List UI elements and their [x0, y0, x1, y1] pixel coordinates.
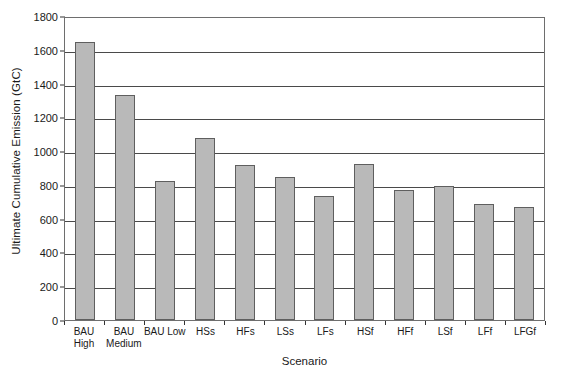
x-axis-tick-mark	[425, 321, 426, 325]
bar-slot	[344, 18, 384, 320]
bar[interactable]	[394, 190, 414, 320]
x-axis-tick-label: HSs	[186, 326, 226, 349]
y-axis-title-text: Ultimate Cumulative Emission (GtC)	[10, 67, 22, 254]
x-axis-tick-mark	[385, 321, 386, 325]
x-axis-tick-label-line1: HSf	[357, 326, 374, 337]
x-axis-tick-label-line1: LFs	[317, 326, 334, 337]
x-axis-tick-mark	[465, 321, 466, 325]
bar[interactable]	[314, 196, 334, 320]
bar-slot	[145, 18, 185, 320]
y-axis-tick-label: 1600	[34, 45, 58, 57]
x-axis-tick-label-line1: LFGf	[514, 326, 536, 337]
y-axis-tick-label: 1800	[34, 11, 58, 23]
x-axis-tick-mark	[264, 321, 265, 325]
y-axis-tick-label: 400	[40, 247, 58, 259]
x-axis-tick-label-line1: HSs	[196, 326, 215, 337]
x-axis-tick-mark	[505, 321, 506, 325]
x-axis-tick-label: LSs	[265, 326, 305, 349]
x-axis-tick-label: BAU Low	[144, 326, 186, 349]
bar[interactable]	[275, 177, 295, 320]
x-axis-tick-mark	[104, 321, 105, 325]
y-axis-tick-label: 1200	[34, 112, 58, 124]
bar-chart-figure: Ultimate Cumulative Emission (GtC) 02004…	[0, 0, 564, 378]
bar[interactable]	[514, 207, 534, 320]
bar-slot	[504, 18, 544, 320]
x-axis-tick-label-line1: LFf	[478, 326, 492, 337]
y-axis-tick-label: 200	[40, 281, 58, 293]
bar-slot	[105, 18, 145, 320]
x-axis-tick-mark	[144, 321, 145, 325]
x-axis-tick-label-line2: Medium	[104, 338, 144, 350]
bar[interactable]	[75, 42, 95, 320]
bar[interactable]	[155, 181, 175, 320]
x-axis-tick-mark	[305, 321, 306, 325]
bar[interactable]	[354, 164, 374, 320]
x-axis-tick-label-line1: BAU	[114, 326, 135, 337]
y-axis-tick-label: 0	[52, 315, 58, 327]
x-axis-tick-mark	[545, 321, 546, 325]
x-axis-tick-label: BAUHigh	[64, 326, 104, 349]
y-axis-tick-label: 1000	[34, 146, 58, 158]
x-axis-tick-label-line1: HFf	[397, 326, 413, 337]
bar[interactable]	[474, 204, 494, 320]
x-axis-tick-label-line1: LSs	[277, 326, 294, 337]
bar-slot	[424, 18, 464, 320]
x-axis-tick-label-line1: BAU	[74, 326, 95, 337]
bar[interactable]	[434, 186, 454, 320]
bar-slot	[185, 18, 225, 320]
bar-slot	[65, 18, 105, 320]
x-axis-tick-label-line2: High	[64, 338, 104, 350]
x-axis-tick-label: HFf	[385, 326, 425, 349]
y-axis-tick-labels: 020040060080010001200140016001800	[22, 0, 58, 338]
x-axis-tick-labels: BAUHighBAUMediumBAU LowHSsHFsLSsLFsHSfHF…	[64, 326, 545, 349]
x-axis-tick-mark	[64, 321, 65, 325]
x-axis-tick-mark	[224, 321, 225, 325]
x-axis-tick-label: LSf	[425, 326, 465, 349]
bar[interactable]	[115, 95, 135, 320]
bar[interactable]	[235, 165, 255, 320]
y-axis-tick-label: 1400	[34, 79, 58, 91]
bar-slot	[384, 18, 424, 320]
x-axis-tick-label-line1: BAU Low	[144, 326, 186, 337]
x-axis-tick-label: LFGf	[505, 326, 545, 349]
x-axis-tick-label: BAUMedium	[104, 326, 144, 349]
bar[interactable]	[195, 138, 215, 320]
bar-series	[65, 18, 544, 320]
x-axis-tick-label-line1: HFs	[236, 326, 254, 337]
y-axis-tick-label: 600	[40, 214, 58, 226]
x-axis-tick-mark	[184, 321, 185, 325]
plot-area	[64, 17, 545, 321]
x-axis-title: Scenario	[64, 355, 545, 367]
x-axis-tick-label: HSf	[345, 326, 385, 349]
x-axis-tick-mark	[345, 321, 346, 325]
x-axis-tick-label: LFf	[465, 326, 505, 349]
bar-slot	[305, 18, 345, 320]
bar-slot	[464, 18, 504, 320]
x-axis-tick-label: LFs	[305, 326, 345, 349]
y-axis-tick-label: 800	[40, 180, 58, 192]
x-axis-tick-label: HFs	[226, 326, 266, 349]
bar-slot	[265, 18, 305, 320]
x-axis-tick-label-line1: LSf	[438, 326, 453, 337]
bar-slot	[225, 18, 265, 320]
